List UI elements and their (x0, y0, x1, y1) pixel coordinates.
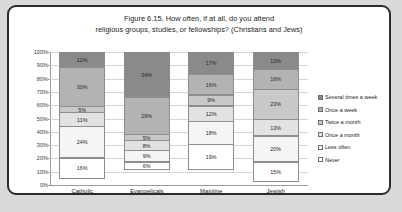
bar-segment-label: 6% (143, 163, 151, 169)
chart-page: Figure 6.15, How often, if at all, do yo… (0, 0, 402, 212)
bar-segment-label: 30% (77, 84, 88, 90)
chart-legend: Several times a weekOnce a weekTwice a m… (318, 91, 391, 166)
bar-segment[interactable]: 29% (124, 97, 170, 136)
bar-segment[interactable]: 16% (253, 69, 299, 90)
legend-label: Once a month (325, 132, 360, 138)
bar-segment[interactable]: 20% (253, 136, 299, 163)
y-axis-tick (48, 158, 50, 159)
bar-segment-label: 18% (206, 130, 217, 136)
bar-segment[interactable]: 9% (124, 150, 170, 162)
bar-segment-label: 11% (77, 117, 87, 123)
y-axis-tick (48, 92, 50, 93)
chart-frame: Figure 6.15, How often, if at all, do yo… (7, 5, 391, 195)
legend-item[interactable]: Never (318, 154, 391, 167)
bar-jewish[interactable]: 13%16%23%13%20%15% (253, 52, 299, 185)
legend-label: Once a week (325, 107, 357, 113)
legend-label: Several times a week (325, 94, 377, 100)
y-axis-tick (48, 132, 50, 133)
bar-segment-label: 29% (141, 113, 152, 119)
y-axis-tick (48, 119, 50, 120)
bar-segment-label: 20% (270, 146, 281, 152)
y-axis-tick (48, 65, 50, 66)
x-axis-label-catholic: Catholic (50, 188, 115, 194)
bar-segment[interactable]: 34% (124, 52, 170, 97)
bar-segment[interactable]: 16% (59, 158, 105, 179)
bar-segment[interactable]: 13% (253, 52, 299, 69)
y-axis-tick-label: 30% (21, 142, 48, 148)
legend-label: Less often (325, 144, 350, 150)
x-axis-label-evangelicals: Evangelicals (115, 188, 180, 194)
bar-segment[interactable]: 17% (188, 52, 234, 75)
y-axis-tick (48, 172, 50, 173)
bar-segment-label: 12% (77, 57, 88, 63)
bar-segment[interactable]: 15% (253, 162, 299, 182)
bar-segment[interactable]: 30% (59, 67, 105, 107)
y-axis-tick-label: 60% (21, 102, 48, 108)
y-axis-labels: 0%10%20%30%40%50%60%70%80%90%100% (21, 47, 48, 190)
y-axis-tick-label: 80% (21, 76, 48, 82)
bar-segment[interactable]: 18% (188, 121, 234, 145)
bar-segment[interactable]: 24% (59, 126, 105, 158)
y-axis-tick-label: 50% (21, 116, 48, 122)
bar-segment-label: 13% (270, 58, 281, 64)
bar-segment-label: 19% (206, 154, 217, 160)
bar-segment[interactable]: 9% (188, 95, 234, 107)
bar-evangelicals[interactable]: 34%29%5%8%9%6% (124, 52, 170, 185)
bar-segment-label: 16% (77, 165, 88, 171)
y-axis-tick (48, 79, 50, 80)
bar-segment[interactable]: 11% (59, 112, 105, 127)
bar-segment-label: 12% (206, 111, 217, 117)
gridline (50, 185, 308, 186)
bar-segment-label: 9% (143, 153, 151, 159)
legend-swatch-icon (318, 132, 323, 137)
bar-segment[interactable]: 12% (188, 106, 234, 122)
legend-swatch-icon (318, 107, 323, 112)
legend-label: Never (325, 157, 340, 163)
x-axis-label-jewish: Jewish (244, 188, 309, 194)
bar-segment-label: 24% (77, 139, 88, 145)
bar-segment-label: 23% (270, 101, 281, 107)
y-axis-tick-label: 100% (21, 49, 48, 55)
bar-segment-label: 16% (206, 82, 217, 88)
bar-segment[interactable]: 6% (124, 162, 170, 170)
y-axis-tick-label: 90% (21, 62, 48, 68)
y-axis-tick-label: 70% (21, 89, 48, 95)
x-axis-labels: CatholicEvangelicalsMainlineJewish (50, 188, 308, 195)
legend-item[interactable]: Less often (318, 141, 391, 154)
plot-area: 12%30%5%11%24%16%34%29%5%8%9%6%17%16%9%1… (50, 52, 308, 185)
legend-swatch-icon (318, 157, 323, 162)
legend-label: Twice a month (325, 119, 360, 125)
bar-segment-label: 16% (270, 76, 281, 82)
bar-segment-label: 13% (270, 125, 281, 131)
legend-swatch-icon (318, 145, 323, 150)
bar-segment-label: 15% (270, 169, 281, 175)
legend-swatch-icon (318, 95, 323, 100)
legend-item[interactable]: Once a month (318, 129, 391, 142)
y-axis-tick (48, 185, 50, 186)
y-axis-tick (48, 52, 50, 53)
bar-catholic[interactable]: 12%30%5%11%24%16% (59, 52, 105, 185)
legend-item[interactable]: Several times a week (318, 91, 391, 104)
legend-item[interactable]: Twice a month (318, 116, 391, 129)
y-axis-tick (48, 145, 50, 146)
bar-segment[interactable]: 13% (253, 119, 299, 136)
bar-segment[interactable]: 16% (188, 74, 234, 95)
chart-title-line-1: Figure 6.15, How often, if at all, do yo… (9, 14, 389, 25)
y-axis-tick-label: 40% (21, 129, 48, 135)
chart-title-line-2: religious groups, studies, or fellowship… (9, 25, 389, 36)
legend-swatch-icon (318, 120, 323, 125)
bar-segment-label: 34% (141, 72, 152, 78)
y-axis-tick-label: 10% (21, 169, 48, 175)
bar-segment[interactable]: 12% (59, 52, 105, 68)
bar-segment[interactable]: 23% (253, 89, 299, 120)
legend-item[interactable]: Once a week (318, 104, 391, 117)
y-axis-tick (48, 105, 50, 106)
x-axis-label-mainline: Mainline (179, 188, 244, 194)
y-axis-tick-label: 20% (21, 155, 48, 161)
y-axis-tick-label: 0% (21, 182, 48, 188)
bar-segment[interactable]: 19% (188, 144, 234, 169)
bar-segment-label: 9% (207, 97, 215, 103)
bar-segment-label: 8% (143, 143, 151, 149)
chart-title: Figure 6.15, How often, if at all, do yo… (9, 14, 389, 35)
bar-mainline[interactable]: 17%16%9%12%18%19% (188, 52, 234, 185)
